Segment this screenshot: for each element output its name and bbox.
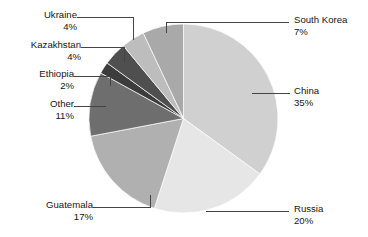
pie-label-guatemala: Guatemala 17% (0, 199, 93, 222)
pie-label-south-korea-name: South Korea (294, 14, 368, 26)
pie-label-china: China 35% (294, 85, 368, 108)
pie-label-ukraine-name: Ukraine (0, 9, 77, 21)
pie-label-ethiopia-percent: 2% (0, 80, 74, 92)
pie-label-russia-name: Russia (294, 203, 368, 215)
pie-label-ethiopia: Ethiopia 2% (0, 68, 74, 91)
leader-line-ukraine (77, 17, 133, 40)
pie-label-guatemala-percent: 17% (0, 211, 93, 223)
pie-label-ukraine-percent: 4% (0, 21, 77, 33)
pie-label-other: Other 11% (0, 98, 74, 121)
pie-label-russia: Russia 20% (294, 203, 368, 226)
pie-label-russia-percent: 20% (294, 215, 368, 227)
pie-label-china-percent: 35% (294, 97, 368, 109)
pie-label-south-korea-percent: 7% (294, 26, 368, 38)
pie-slices: China 35%Russia 20%Guatemala 17%Other 11… (89, 24, 278, 213)
pie-label-guatemala-name: Guatemala (0, 199, 93, 211)
pie-label-other-percent: 11% (0, 110, 74, 122)
pie-label-kazakhstan-percent: 4% (0, 51, 81, 63)
pie-label-ethiopia-name: Ethiopia (0, 68, 74, 80)
pie-label-china-name: China (294, 85, 368, 97)
pie-label-kazakhstan: Kazakhstan 4% (0, 39, 81, 62)
pie-label-kazakhstan-name: Kazakhstan (0, 39, 81, 51)
pie-label-ukraine: Ukraine 4% (0, 9, 77, 32)
pie-label-other-name: Other (0, 98, 74, 110)
pie-chart: China 35%Russia 20%Guatemala 17%Other 11… (0, 0, 368, 237)
pie-label-south-korea: South Korea 7% (294, 14, 368, 37)
